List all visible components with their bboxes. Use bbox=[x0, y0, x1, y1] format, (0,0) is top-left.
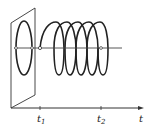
point-plane-right bbox=[31, 47, 34, 50]
point-plane-left bbox=[15, 47, 18, 50]
axis-label-t: t bbox=[139, 113, 144, 124]
coil-5 bbox=[87, 22, 108, 75]
helix-diagram: t1 t2 t bbox=[0, 0, 149, 130]
axis-arrowhead bbox=[138, 106, 144, 110]
coil-4 bbox=[76, 22, 98, 75]
coil-3 bbox=[65, 22, 87, 75]
coil-2 bbox=[54, 22, 76, 75]
coil-1 bbox=[40, 22, 64, 75]
tick-label-t2: t2 bbox=[97, 113, 106, 126]
tick-label-t1: t1 bbox=[37, 113, 46, 126]
point-t1 bbox=[38, 46, 41, 49]
helix-coils bbox=[40, 22, 108, 75]
point-t2 bbox=[100, 47, 103, 50]
